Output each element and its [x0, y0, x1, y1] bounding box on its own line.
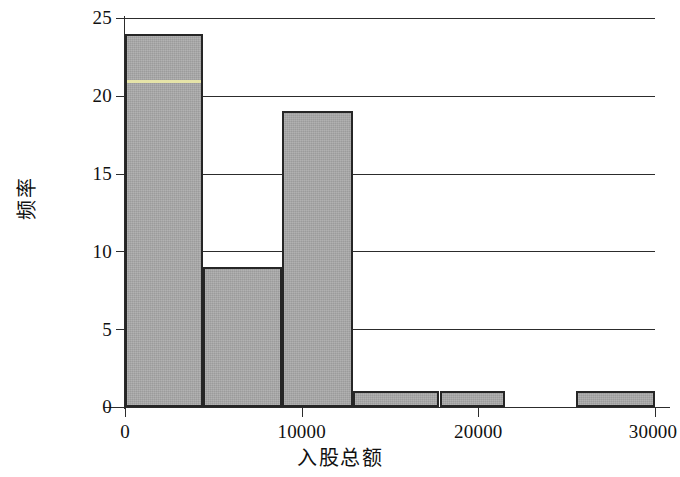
histogram-chart: 25 20 15 10 5 0 0 10000 20000 30000 入股总额… [0, 0, 680, 477]
y-tick-label-5: 5 [52, 320, 112, 339]
x-tick-10000 [302, 407, 303, 417]
x-axis-title: 入股总额 [0, 446, 680, 470]
x-tick-0 [125, 407, 126, 417]
y-tick-label-15: 15 [52, 164, 112, 183]
y-tick-labels: 25 20 15 10 5 0 [0, 0, 680, 477]
x-tick-label-20000: 20000 [454, 421, 503, 443]
y-tick-label-0: 0 [52, 397, 112, 416]
x-tick-30000 [655, 407, 656, 417]
y-tick-label-25: 25 [52, 8, 112, 27]
y-tick-label-20: 20 [52, 86, 112, 105]
y-tick-label-10: 10 [52, 242, 112, 261]
y-axis-title: 频率 [15, 138, 39, 258]
x-tick-label-10000: 10000 [277, 421, 326, 443]
x-tick-label-0: 0 [120, 421, 130, 443]
x-tick-label-30000: 30000 [629, 421, 678, 443]
x-tick-20000 [478, 407, 479, 417]
